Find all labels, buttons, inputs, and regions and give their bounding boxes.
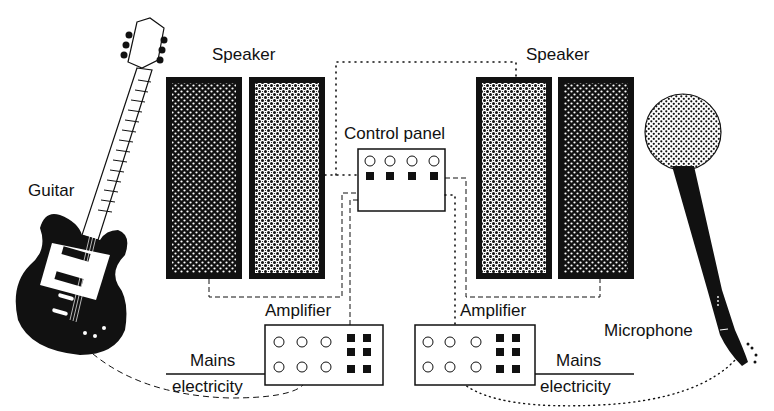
control-panel [358,149,445,211]
label-amplifier-left: Amplifier [265,302,331,319]
amplifier-right [415,325,535,385]
label-speaker-left: Speaker [212,46,275,63]
label-electricity-left: electricity [172,378,243,395]
diagram-canvas [0,0,774,411]
label-mains-right: Mains [556,352,601,369]
speaker-left [166,77,325,279]
label-guitar: Guitar [28,182,74,199]
label-speaker-right: Speaker [526,46,589,63]
speaker-right [476,77,634,279]
sound-system-diagram: Guitar Speaker Speaker Control panel Amp… [0,0,774,411]
label-electricity-right: electricity [540,378,611,395]
label-control-panel: Control panel [344,125,445,142]
label-amplifier-right: Amplifier [460,302,526,319]
amplifier-left [265,325,383,385]
label-microphone: Microphone [604,322,693,339]
label-mains-left: Mains [190,352,235,369]
